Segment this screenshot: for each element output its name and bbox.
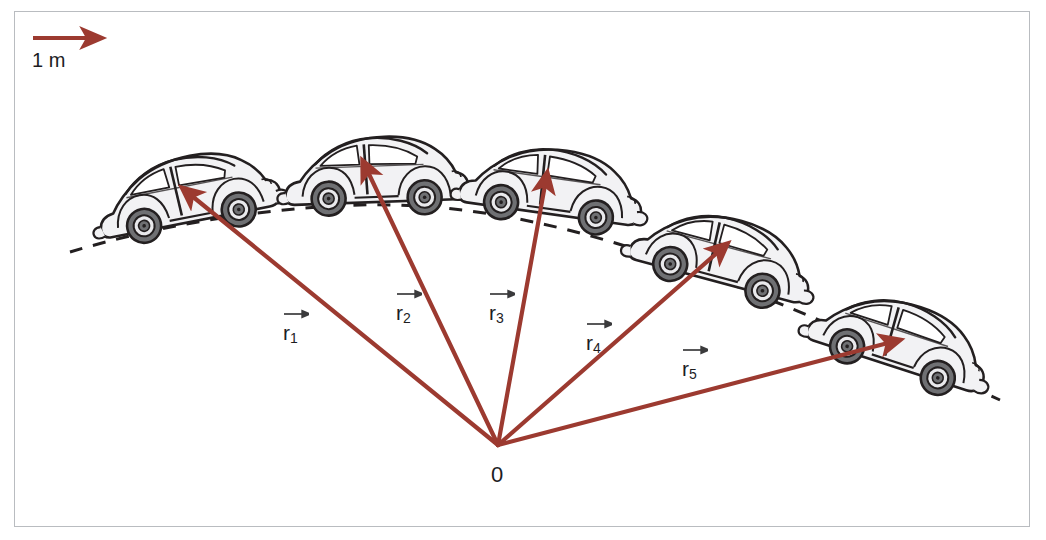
car-5	[793, 273, 1006, 409]
vector-subscript-r3: 3	[496, 310, 504, 326]
vector-label-r5: r5	[682, 358, 697, 381]
vector-letter-r1: r	[283, 321, 290, 344]
vector-subscript-r2: 2	[403, 310, 411, 326]
vector-overbar-icon	[489, 289, 515, 299]
vector-label-r2: r2	[396, 302, 411, 325]
diagram-svg	[0, 0, 1046, 540]
car-4	[616, 193, 828, 321]
vector-letter-r5: r	[682, 357, 689, 380]
vector-letter-r3: r	[489, 301, 496, 324]
vector-label-r3: r3	[489, 302, 504, 325]
vector-overbar-icon	[283, 309, 309, 319]
origin-label: 0	[491, 464, 503, 486]
vector-letter-r2: r	[396, 301, 403, 324]
vector-letter-r4: r	[586, 331, 593, 354]
vector-subscript-r1: 1	[290, 330, 298, 346]
vector-subscript-r4: 4	[593, 340, 601, 356]
vector-overbar-icon	[682, 345, 708, 355]
vector-subscript-r5: 5	[689, 366, 697, 382]
vector-overbar-icon	[396, 289, 422, 299]
vector-label-r1: r1	[283, 322, 298, 345]
vector-r3	[498, 185, 545, 445]
vector-label-r4: r4	[586, 332, 601, 355]
vector-overbar-icon	[586, 319, 612, 329]
figure-canvas: 1 m 0 r1 r2 r3 r4 r5	[0, 0, 1046, 540]
car-1	[82, 139, 292, 254]
scale-label: 1 m	[32, 50, 65, 70]
vector-r1	[192, 196, 498, 445]
